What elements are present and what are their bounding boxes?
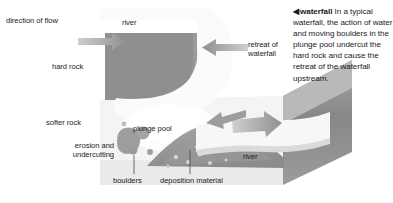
boulder-medium xyxy=(129,146,138,155)
boulder-tiny xyxy=(122,122,127,127)
deposit-pebble xyxy=(166,164,169,167)
label-erosion-and-undercutting: erosion and undercutting xyxy=(52,141,114,159)
label-plunge-pool: plunge pool xyxy=(133,124,172,133)
label-river-bottom: river xyxy=(243,152,258,161)
label-hard-rock: hard rock xyxy=(52,62,83,71)
triangle-left-icon: ◀ xyxy=(293,7,299,16)
label-river-top: river xyxy=(122,18,137,27)
label-softer-rock: softer rock xyxy=(46,118,81,127)
deposit-pebble xyxy=(186,160,190,164)
figure-caption: ◀waterfall In a typical waterfall, the a… xyxy=(293,6,393,84)
deposit-pebble xyxy=(174,155,179,160)
label-deposition-material: deposition material xyxy=(160,176,223,185)
label-direction-of-flow: direction of flow xyxy=(6,16,58,25)
figure-container: direction of flow river hard rock softer… xyxy=(0,0,393,203)
label-boulders: boulders xyxy=(113,176,142,185)
boulder-small xyxy=(147,149,153,155)
caption-body: In a typical waterfall, the action of wa… xyxy=(293,7,392,83)
label-retreat-of-waterfall: retreat of waterfall xyxy=(248,40,294,58)
caption-term: waterfall xyxy=(300,7,332,16)
deposit-pebble xyxy=(225,159,228,162)
deposit-pebble xyxy=(208,161,212,165)
